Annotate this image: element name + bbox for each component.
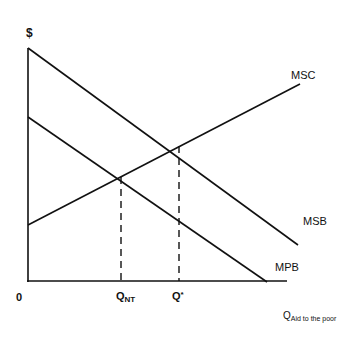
y-axis-label: $ [26, 27, 33, 39]
origin-label: 0 [16, 292, 22, 303]
x-axis-label: QAid to the poor [283, 311, 336, 322]
mpb-label: MPB [275, 262, 299, 273]
x-axis-subscript: Aid to the poor [291, 315, 337, 322]
q-star-label: Q* [172, 291, 184, 302]
msc-label: MSC [291, 70, 315, 81]
q-star-main: Q [172, 290, 181, 302]
msc-curve [28, 84, 300, 225]
mpb-curve [28, 117, 267, 282]
msb-curve [28, 48, 298, 245]
q-nt-label: QNT [116, 291, 135, 304]
q-star-superscript: * [181, 290, 184, 299]
q-nt-subscript: NT [125, 295, 136, 304]
q-nt-main: Q [116, 290, 125, 302]
x-axis-main: Q [283, 310, 291, 321]
msb-label: MSB [303, 216, 327, 227]
diagram-canvas [0, 0, 355, 339]
